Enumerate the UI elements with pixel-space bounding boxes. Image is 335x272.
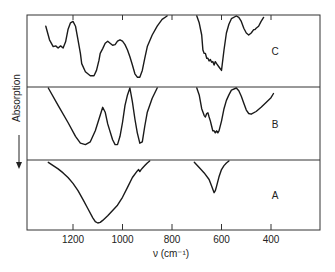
spectrum-b-segment-1	[48, 88, 157, 145]
spectrum-b-segment-2	[197, 88, 274, 133]
x-tick-label-1000: 1000	[111, 234, 134, 245]
x-tick-label-1200: 1200	[62, 234, 85, 245]
x-tick-label-600: 600	[213, 234, 230, 245]
panel-labels: CBA	[271, 46, 278, 201]
y-axis-label-group: Absorption	[11, 74, 22, 122]
x-tick-label-400: 400	[263, 234, 280, 245]
spectrum-c-segment-1	[46, 16, 167, 77]
spectra-curves	[46, 16, 274, 223]
panel-label-b: B	[272, 119, 279, 130]
y-axis-label: Absorption	[11, 74, 22, 122]
spectrum-a-segment-2	[194, 161, 229, 193]
x-tick-labels: 12001000800600400	[62, 234, 280, 245]
panel-label-c: C	[271, 46, 278, 57]
x-tick-label-800: 800	[164, 234, 181, 245]
spectrum-a-segment-1	[48, 161, 149, 223]
absorption-arrow-icon	[16, 135, 22, 169]
spectrum-c-segment-2	[197, 16, 264, 70]
x-axis-title: ν (cm⁻¹)	[153, 248, 189, 259]
x-ticks-top	[73, 15, 271, 20]
x-ticks-bottom	[73, 224, 271, 230]
spectra-chart: 12001000800600400 CBA ν (cm⁻¹) Absorptio…	[0, 0, 335, 272]
panel-label-a: A	[272, 190, 279, 201]
